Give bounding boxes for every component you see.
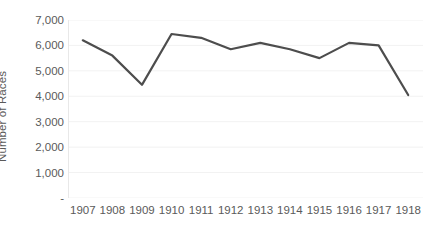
y-axis-tick-label: 5,000: [22, 65, 64, 77]
x-axis-tick-label: 1915: [307, 203, 333, 217]
x-axis-tick-label: 1913: [247, 203, 273, 217]
x-axis-tick-label: 1916: [336, 203, 362, 217]
y-axis-tick-label: 7,000: [22, 14, 64, 26]
y-axis-title: Number of Races: [0, 0, 22, 233]
y-axis-tick-label: 2,000: [22, 141, 64, 153]
x-axis-tick-label: 1911: [189, 203, 214, 217]
y-axis-tick-label: 1,000: [22, 167, 64, 179]
x-axis-tick-label: 1914: [277, 203, 303, 217]
plot-area: [68, 20, 423, 198]
y-axis-tick-labels: -1,0002,0003,0004,0005,0006,0007,000: [22, 14, 64, 198]
x-axis-tick-label: 1908: [100, 203, 126, 217]
x-axis-tick-labels: 1907190819091910191119121913191419151916…: [68, 203, 423, 223]
x-axis-tick-label: 1907: [70, 203, 96, 217]
x-axis-tick-label: 1918: [395, 203, 421, 217]
x-axis-tick-label: 1912: [218, 203, 244, 217]
chart-container: Number of Races -1,0002,0003,0004,0005,0…: [0, 0, 433, 233]
y-axis-tick-label: 3,000: [22, 116, 64, 128]
x-axis-tick-label: 1917: [366, 203, 392, 217]
x-axis-tick-label: 1910: [159, 203, 185, 217]
y-axis-tick-label: 4,000: [22, 90, 64, 102]
y-axis-tick-label: -: [22, 192, 64, 204]
y-axis-tick-label: 6,000: [22, 39, 64, 51]
x-axis-tick-label: 1909: [129, 203, 155, 217]
data-series-line: [83, 34, 408, 95]
line-chart-svg: [68, 20, 423, 198]
